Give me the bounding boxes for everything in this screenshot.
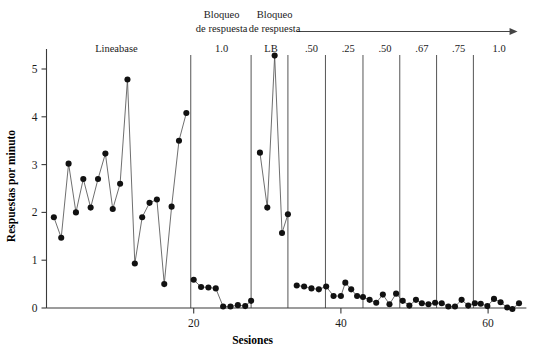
bloqueo-2-line1: Bloqueo [257,9,293,20]
data-point [191,277,197,283]
data-point [205,284,211,290]
bloqueo-1-line1: Bloqueo [204,9,240,20]
bloqueo-1-line2: de respuesta [196,23,248,34]
data-point [393,291,399,297]
data-point [419,300,425,306]
data-point [169,204,175,210]
x-tick-label-40: 40 [335,317,347,329]
data-point [484,303,490,309]
data-point [491,296,497,302]
data-point [66,161,72,167]
phase-label-9: 1.0 [493,43,506,54]
data-point [354,293,360,299]
phase-divider-lines [191,55,474,308]
data-point [465,303,471,309]
data-point [439,300,445,306]
phase-progress-arrow [297,28,518,35]
data-point [316,286,322,292]
data-point [373,300,379,306]
data-point [348,286,354,292]
data-point [146,200,152,206]
data-point [248,298,254,304]
data-point [301,283,307,289]
y-tick-label-0: 0 [32,302,38,314]
phase-label-8: .75 [452,43,465,54]
data-point [400,298,406,304]
y-tick-label-1: 1 [32,254,38,266]
data-point [183,110,189,116]
y-tick-label-4: 4 [32,111,38,123]
data-point [498,299,504,305]
x-tick-label-60: 60 [482,317,494,329]
data-point [51,214,57,220]
data-point [242,303,248,309]
phase-label-2: 1.0 [215,43,228,54]
data-point [478,301,484,307]
data-point [88,205,94,211]
phase-label-6: .50 [378,43,391,54]
data-point [406,303,412,309]
data-point [73,209,79,215]
phase-label-5: .25 [342,43,355,54]
data-point [117,181,123,187]
data-point [360,294,366,300]
data-point [386,301,392,307]
data-point [227,304,233,310]
data-point [509,306,515,312]
responses-per-minute-chart: 012345204060 Lineabase1.0LB.50.25.50.67.… [0,0,539,355]
data-point [80,176,86,182]
data-point [285,211,291,217]
data-point [124,76,130,82]
x-tick-label-20: 20 [188,317,200,329]
phase-label-7: .67 [415,43,428,54]
data-point [380,292,386,298]
data-point [95,176,101,182]
data-point [58,235,64,241]
series-segment-2 [260,56,288,233]
bloqueo-2-line2: de respuesta [249,23,301,34]
data-point [516,300,522,306]
phase-label-4: .50 [305,43,318,54]
data-point [294,282,300,288]
data-point [279,230,285,236]
data-point [452,304,458,310]
data-point [459,297,465,303]
y-tick-label-5: 5 [32,63,38,75]
y-axis-title: Respuestas por minuto [5,130,18,242]
data-point [154,196,160,202]
data-point [235,302,241,308]
data-point [139,214,145,220]
y-tick-label-3: 3 [32,159,38,171]
chart-page: 012345204060 Lineabase1.0LB.50.25.50.67.… [0,0,539,355]
arrow-head-icon [510,28,518,35]
data-point [445,304,451,310]
chart-text-labels: Lineabase1.0LB.50.25.50.67.751.0Bloqueod… [5,9,506,346]
data-point [257,150,263,156]
data-point [323,283,329,289]
data-point [432,300,438,306]
y-tick-label-2: 2 [32,206,38,218]
phase-label-3: LB [264,43,277,54]
data-point [161,281,167,287]
data-point [198,284,204,290]
data-point [342,280,348,286]
data-point [330,293,336,299]
chart-axes: 012345204060 [32,49,527,329]
data-series-line [54,56,519,309]
data-point [102,151,108,157]
data-series-points [51,53,522,312]
x-axis-title: Sesiones [232,334,273,346]
data-point [213,285,219,291]
data-point [308,285,314,291]
data-point [220,304,226,310]
data-point [132,261,138,267]
data-point [413,297,419,303]
data-point [504,304,510,310]
data-point [472,300,478,306]
phase-label-1: Lineabase [95,43,138,54]
data-point [176,138,182,144]
data-point [425,301,431,307]
data-point [264,205,270,211]
data-point [110,206,116,212]
series-segment-1 [194,280,251,307]
